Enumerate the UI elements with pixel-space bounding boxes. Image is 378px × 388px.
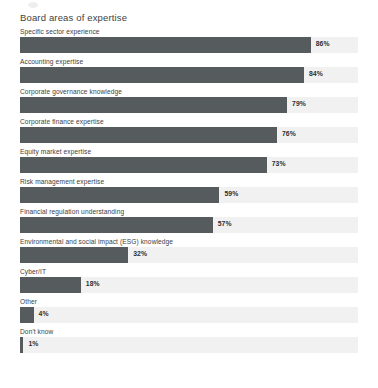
bar-track xyxy=(20,127,358,143)
bar-value-label: 86% xyxy=(316,40,330,47)
bar-category-label: Accounting expertise xyxy=(20,57,83,66)
bar-category-label: Specific sector experience xyxy=(20,27,100,36)
bar-category-label: Corporate finance expertise xyxy=(20,117,104,126)
bar-fill xyxy=(20,157,267,173)
bar-fill xyxy=(20,127,277,143)
bar-track xyxy=(20,37,358,53)
bar-value-label: 73% xyxy=(272,160,286,167)
bar-row: Corporate finance expertise76% xyxy=(0,117,378,147)
bar-category-label: Risk management expertise xyxy=(20,177,104,186)
bar-fill xyxy=(20,337,23,353)
bar-category-label: Corporate governance knowledge xyxy=(20,87,122,96)
bar-fill xyxy=(20,217,213,233)
bar-value-label: 18% xyxy=(86,280,100,287)
bar-fill xyxy=(20,37,311,53)
bar-track xyxy=(20,67,358,83)
bar-track xyxy=(20,337,358,353)
bar-value-label: 76% xyxy=(282,130,296,137)
bar-row: Other4% xyxy=(0,297,378,327)
bar-value-label: 79% xyxy=(292,100,306,107)
bar-track xyxy=(20,97,358,113)
bar-rows-container: Specific sector experience86%Accounting … xyxy=(0,27,378,357)
bar-track xyxy=(20,217,358,233)
bar-row: Corporate governance knowledge79% xyxy=(0,87,378,117)
bar-fill xyxy=(20,187,219,203)
bar-category-label: Environmental and social impact (ESG) kn… xyxy=(20,237,173,246)
bar-value-label: 4% xyxy=(39,310,49,317)
bar-track xyxy=(20,277,358,293)
bar-row: Cyber/IT18% xyxy=(0,267,378,297)
bar-row: Don't know1% xyxy=(0,327,378,357)
bar-track xyxy=(20,307,358,323)
bar-row: Accounting expertise84% xyxy=(0,57,378,87)
bar-track xyxy=(20,247,358,263)
bar-fill xyxy=(20,307,34,323)
bar-row: Financial regulation understanding57% xyxy=(0,207,378,237)
bar-category-label: Cyber/IT xyxy=(20,267,46,276)
bar-track xyxy=(20,157,358,173)
bar-fill xyxy=(20,277,81,293)
bar-chart: Board areas of expertise Specific sector… xyxy=(0,0,378,388)
chart-title: Board areas of expertise xyxy=(20,12,127,23)
bar-row: Specific sector experience86% xyxy=(0,27,378,57)
bar-fill xyxy=(20,67,304,83)
bar-category-label: Financial regulation understanding xyxy=(20,207,124,216)
bar-value-label: 1% xyxy=(28,340,38,347)
bar-fill xyxy=(20,97,287,113)
bar-value-label: 59% xyxy=(224,190,238,197)
bar-row: Environmental and social impact (ESG) kn… xyxy=(0,237,378,267)
bar-value-label: 32% xyxy=(133,250,147,257)
bar-track xyxy=(20,187,358,203)
bar-value-label: 84% xyxy=(309,70,323,77)
bar-value-label: 57% xyxy=(218,220,232,227)
bar-fill xyxy=(20,247,128,263)
bar-row: Risk management expertise59% xyxy=(0,177,378,207)
bar-category-label: Don't know xyxy=(20,327,53,336)
bar-category-label: Other xyxy=(20,297,37,306)
bar-row: Equity market expertise73% xyxy=(0,147,378,177)
page-artifact xyxy=(28,2,38,8)
bar-category-label: Equity market expertise xyxy=(20,147,91,156)
